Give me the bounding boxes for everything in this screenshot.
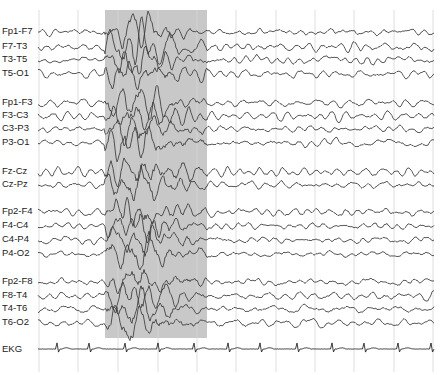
channel-label-c3-p3: C3-P3 xyxy=(2,123,29,133)
channel-label-fp2-f4: Fp2-F4 xyxy=(2,206,33,216)
channel-label-p3-o1: P3-O1 xyxy=(2,137,29,147)
channel-label-fp1-f3: Fp1-F3 xyxy=(2,97,33,107)
channel-label-f7-t3: F7-T3 xyxy=(2,41,27,51)
channel-label-fp1-f7: Fp1-F7 xyxy=(2,26,33,36)
channel-label-t3-t5: T3-T5 xyxy=(2,54,27,64)
channel-label-t6-o2: T6-O2 xyxy=(2,317,29,327)
channel-label-cz-pz: Cz-Pz xyxy=(2,179,28,189)
channel-label-c4-p4: C4-P4 xyxy=(2,234,29,244)
channel-label-fz-cz: Fz-Cz xyxy=(2,166,27,176)
channel-label-f8-t4: F8-T4 xyxy=(2,290,27,300)
channel-label-f3-c3: F3-C3 xyxy=(2,110,28,120)
ekg-label: EKG xyxy=(2,344,22,354)
channel-label-t5-o1: T5-O1 xyxy=(2,68,29,78)
eeg-trace-canvas xyxy=(0,0,442,375)
channel-label-fp2-f8: Fp2-F8 xyxy=(2,276,33,286)
channel-label-f4-c4: F4-C4 xyxy=(2,220,28,230)
channel-label-t4-t6: T4-T6 xyxy=(2,303,27,313)
eeg-figure: Fp1-F7F7-T3T3-T5T5-O1Fp1-F3F3-C3C3-P3P3-… xyxy=(0,0,442,375)
channel-label-p4-o2: P4-O2 xyxy=(2,248,29,258)
